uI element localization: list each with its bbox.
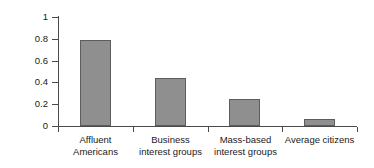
x-axis-tick [58, 127, 59, 132]
y-axis-line [58, 16, 59, 127]
category-label-line: Average citizens [282, 134, 357, 146]
y-axis-tick-label: 0.4 [8, 77, 48, 87]
category-label-line: Business [133, 134, 208, 146]
x-axis-tick [133, 127, 134, 132]
y-axis-tick-label: 0.6 [8, 56, 48, 66]
category-label-line: interest groups [133, 146, 208, 158]
x-axis-category-label: AffluentAmericans [58, 134, 133, 157]
bar [304, 119, 335, 126]
y-axis-tick [52, 17, 58, 18]
bar [80, 40, 111, 126]
bar [155, 78, 186, 126]
x-axis-category-label: Mass-basedinterest groups [208, 134, 283, 157]
y-axis-tick-label: 0 [8, 121, 48, 131]
y-axis-tick [52, 104, 58, 105]
y-axis-tick [52, 39, 58, 40]
category-label-line: interest groups [208, 146, 283, 158]
y-axis-tick-label: 1 [8, 12, 48, 22]
category-label-line: Affluent [58, 134, 133, 146]
y-axis-tick-label: 0.8 [8, 34, 48, 44]
x-axis-tick [208, 127, 209, 132]
category-label-line: Americans [58, 146, 133, 158]
x-axis-tick [357, 127, 358, 132]
y-axis-tick [52, 82, 58, 83]
y-axis-tick-label: 0.2 [8, 99, 48, 109]
x-axis-category-label: Average citizens [282, 134, 357, 146]
y-axis-tick [52, 61, 58, 62]
bar [229, 99, 260, 126]
category-label-line: Mass-based [208, 134, 283, 146]
bar-chart: Influence on Policy 00.20.40.60.81 Afflu… [0, 0, 374, 168]
x-axis-category-label: Businessinterest groups [133, 134, 208, 157]
x-axis-tick [282, 127, 283, 132]
